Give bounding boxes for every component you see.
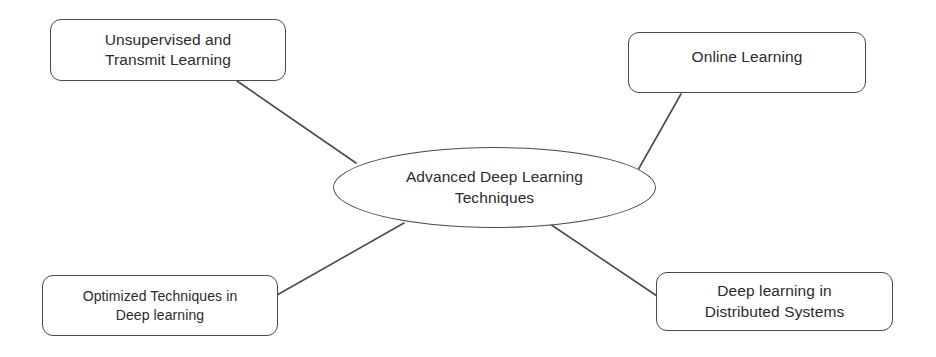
node-deep-learning-in-distributed-systems[interactable]: Deep learning in Distributed Systems xyxy=(656,272,893,331)
node-label: Unsupervised and Transmit Learning xyxy=(99,30,238,71)
connector-optimized-to-center xyxy=(277,223,404,295)
node-online-learning[interactable]: Online Learning xyxy=(628,32,866,93)
connector-online-to-center xyxy=(638,94,681,170)
node-label: Deep learning in Distributed Systems xyxy=(699,281,851,322)
node-label: Online Learning xyxy=(686,47,809,67)
diagram-canvas: Unsupervised and Transmit Learning Onlin… xyxy=(0,0,936,357)
node-optimized-techniques-in-deep-learning[interactable]: Optimized Techniques in Deep learning xyxy=(42,275,278,336)
node-label: Advanced Deep Learning Techniques xyxy=(400,167,589,207)
connector-unsupervised-to-center xyxy=(237,81,356,163)
node-label: Optimized Techniques in Deep learning xyxy=(77,287,244,324)
connector-center-to-distributed xyxy=(547,222,657,296)
node-advanced-deep-learning-techniques[interactable]: Advanced Deep Learning Techniques xyxy=(333,147,656,228)
node-unsupervised-and-transmit-learning[interactable]: Unsupervised and Transmit Learning xyxy=(50,19,286,81)
